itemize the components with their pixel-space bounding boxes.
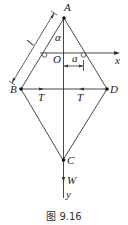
- label-T-left: T: [38, 91, 45, 103]
- label-x: x: [114, 54, 120, 66]
- label-a: a: [72, 52, 78, 64]
- label-alpha: α: [55, 31, 61, 43]
- figure-caption: 图 9.16: [46, 211, 81, 222]
- label-W: W: [67, 174, 77, 186]
- label-T-right: T: [77, 91, 84, 103]
- ring-right-icon: [81, 53, 86, 58]
- length-dimension-line: [12, 13, 54, 83]
- rhombus-diagram: A B D C O α a x l T T W y 图 9.16: [0, 0, 128, 225]
- label-D: D: [109, 83, 118, 95]
- offset-arrow-right-icon: [79, 65, 83, 68]
- side-DC: [63, 89, 107, 160]
- ring-left-icon: [42, 53, 47, 58]
- joint-A: [62, 16, 66, 20]
- label-y: y: [65, 188, 71, 200]
- joint-C: [62, 158, 66, 162]
- label-l: l: [24, 38, 36, 47]
- label-A: A: [63, 1, 71, 13]
- label-O: O: [53, 53, 61, 65]
- label-B: B: [10, 83, 17, 95]
- weight-arrow-icon: [62, 177, 65, 182]
- joint-D: [105, 87, 109, 91]
- label-C: C: [67, 154, 75, 166]
- offset-arrow-left-icon: [64, 65, 68, 68]
- joint-B: [19, 87, 23, 91]
